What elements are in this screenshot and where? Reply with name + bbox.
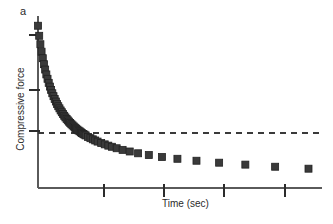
data-marker — [216, 159, 223, 166]
data-marker — [135, 150, 142, 157]
data-marker — [35, 22, 42, 29]
data-marker — [158, 154, 165, 161]
data-marker — [242, 161, 249, 168]
data-marker — [174, 155, 181, 162]
data-marker — [305, 165, 312, 172]
data-marker — [145, 152, 152, 159]
data-marker — [126, 148, 133, 155]
x-axis-label: Time (sec) — [38, 199, 333, 209]
data-marker — [37, 41, 44, 48]
data-marker — [272, 163, 279, 170]
data-marker — [38, 48, 45, 55]
data-markers-group — [35, 22, 313, 172]
data-marker — [119, 146, 126, 153]
figure-panel-a: a Compressive force Time (sec) — [0, 0, 333, 224]
data-marker — [36, 32, 43, 39]
plot-area — [0, 0, 333, 224]
y-axis-label: Compressive force — [16, 44, 26, 174]
data-marker — [193, 157, 200, 164]
